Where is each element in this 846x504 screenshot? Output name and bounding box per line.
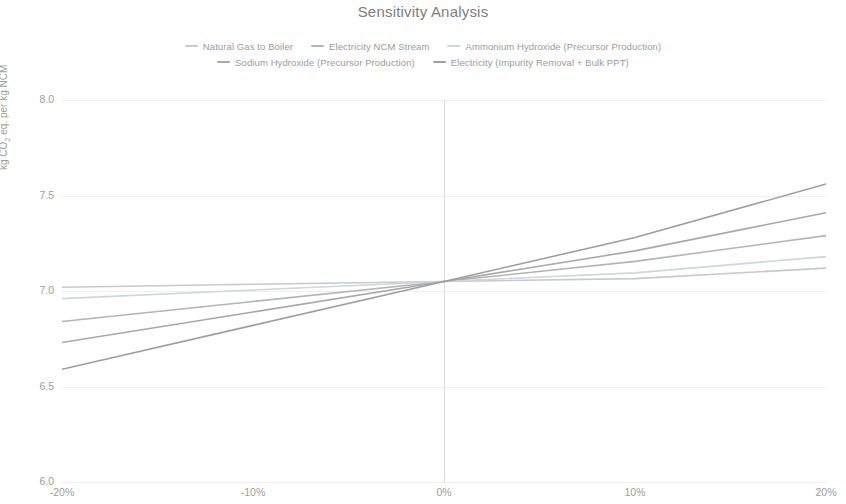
- x-axis-tick-label: 20%: [796, 486, 846, 498]
- series-line: [62, 184, 826, 369]
- gridline: [62, 482, 826, 483]
- legend-item-label: Natural Gas to Boiler: [203, 41, 293, 52]
- legend-swatch-icon: [433, 61, 446, 63]
- y-axis-label: kg CO2 eq. per kg NCM: [0, 0, 12, 170]
- legend-item[interactable]: Electricity NCM Stream: [311, 41, 429, 52]
- legend-item[interactable]: Sodium Hydroxide (Precursor Production): [217, 57, 415, 68]
- x-axis-tick-label: 0%: [414, 486, 474, 498]
- legend-item-label: Electricity (Impurity Removal + Bulk PPT…: [451, 57, 629, 68]
- legend-swatch-icon: [217, 61, 230, 63]
- y-axis-tick-label: 6.5: [14, 380, 54, 392]
- chart-legend: Natural Gas to BoilerElectricity NCM Str…: [0, 38, 846, 70]
- series-line: [62, 236, 826, 322]
- legend-row-2: Sodium Hydroxide (Precursor Production)E…: [0, 54, 846, 70]
- y-axis-tick-label: 8.0: [14, 93, 54, 105]
- legend-row-1: Natural Gas to BoilerElectricity NCM Str…: [0, 38, 846, 54]
- x-axis-tick-label: -20%: [32, 486, 92, 498]
- legend-item-label: Ammonium Hydroxide (Precursor Production…: [465, 41, 661, 52]
- legend-item-label: Electricity NCM Stream: [329, 41, 429, 52]
- x-axis-tick-label: 10%: [605, 486, 665, 498]
- legend-item[interactable]: Natural Gas to Boiler: [185, 41, 293, 52]
- x-axis-tick-label: -10%: [223, 486, 283, 498]
- legend-item[interactable]: Electricity (Impurity Removal + Bulk PPT…: [433, 57, 629, 68]
- legend-item-label: Sodium Hydroxide (Precursor Production): [235, 57, 415, 68]
- series-line: [62, 257, 826, 299]
- legend-swatch-icon: [185, 45, 198, 47]
- plot-area: [62, 100, 826, 482]
- y-axis-label-sub: 2: [3, 137, 12, 141]
- legend-item[interactable]: Ammonium Hydroxide (Precursor Production…: [447, 41, 661, 52]
- y-axis-label-prefix: kg CO: [0, 142, 9, 170]
- chart-root: Sensitivity Analysis Natural Gas to Boil…: [0, 0, 846, 504]
- y-axis-tick-label: 7.5: [14, 189, 54, 201]
- legend-swatch-icon: [311, 45, 324, 47]
- series-line: [62, 268, 826, 287]
- series-line: [62, 213, 826, 343]
- legend-swatch-icon: [447, 45, 460, 47]
- series-lines: [62, 100, 826, 482]
- chart-title: Sensitivity Analysis: [0, 0, 846, 20]
- y-axis-label-suffix: eq. per kg NCM: [0, 65, 9, 138]
- y-axis-tick-label: 7.0: [14, 284, 54, 296]
